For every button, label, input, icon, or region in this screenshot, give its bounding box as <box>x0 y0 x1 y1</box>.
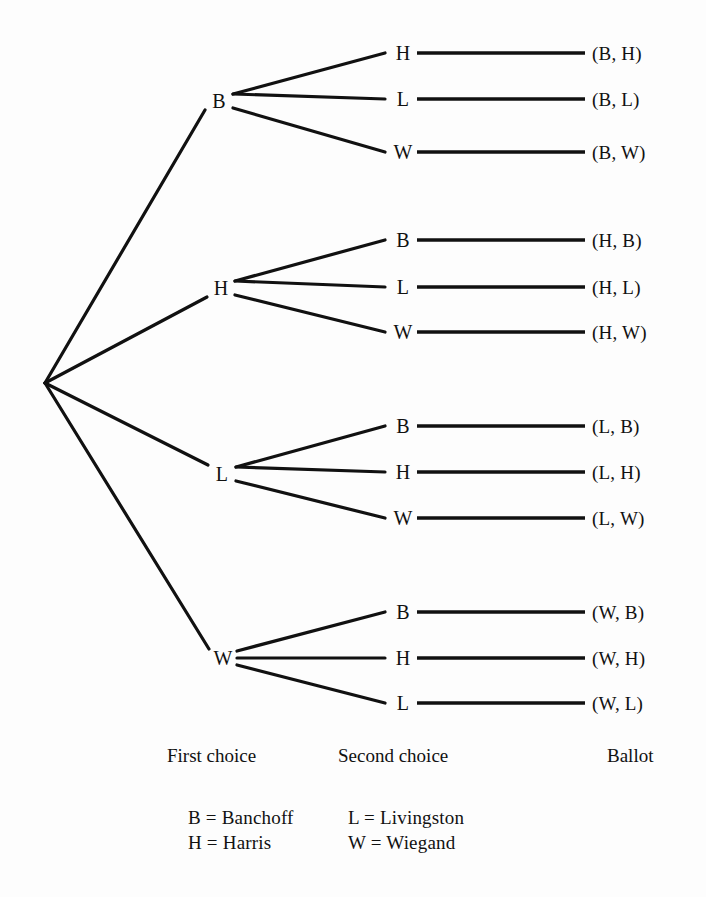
branch-h-w <box>235 295 385 332</box>
branch-l-h <box>236 467 385 472</box>
legend-entry-right: L = Livingston <box>348 805 518 830</box>
first-choice-node-w: W <box>213 648 232 668</box>
ballot-outcome-b-l: (B, L) <box>592 90 640 109</box>
column-caption-ballot: Ballot <box>607 746 653 765</box>
legend-entry-left: B = Banchoff <box>188 805 348 830</box>
ballot-outcome-w-l: (W, L) <box>592 694 643 713</box>
second-choice-node-b-l: L <box>397 89 409 109</box>
ballot-outcome-b-h: (B, H) <box>592 44 642 63</box>
branch-w-b <box>237 612 385 651</box>
column-caption-second-choice: Second choice <box>338 746 448 765</box>
second-choice-node-l-b: B <box>396 416 410 436</box>
ballot-outcome-b-w: (B, W) <box>592 143 646 162</box>
second-choice-node-w-b: B <box>396 602 410 622</box>
second-choice-node-l-w: W <box>393 508 412 528</box>
second-choice-node-h-l: L <box>397 277 409 297</box>
second-choice-node-b-w: W <box>393 142 412 162</box>
legend-row: B = BanchoffL = Livingston <box>188 805 518 830</box>
ballot-outcome-w-h: (W, H) <box>592 649 645 668</box>
first-choice-node-b: B <box>212 91 226 111</box>
second-choice-node-l-h: H <box>396 462 411 482</box>
branch-h-l <box>235 281 385 287</box>
branch-b-l <box>233 94 385 99</box>
second-choice-node-w-l: L <box>397 693 409 713</box>
branch-l-b <box>236 426 385 467</box>
branch-b-w <box>233 108 385 152</box>
second-choice-node-b-h: H <box>396 43 411 63</box>
first-choice-node-l: L <box>216 464 228 484</box>
ballot-outcome-h-b: (H, B) <box>592 231 642 250</box>
second-choice-node-w-h: H <box>396 648 411 668</box>
legend-entry-left: H = Harris <box>188 830 348 855</box>
second-choice-node-h-w: W <box>393 322 412 342</box>
ballot-outcome-h-w: (H, W) <box>592 323 647 342</box>
column-caption-first-choice: First choice <box>167 746 256 765</box>
first-choice-node-h: H <box>214 278 229 298</box>
ballot-outcome-w-b: (W, B) <box>592 603 644 622</box>
branch-h-b <box>235 240 385 281</box>
ballot-outcome-l-w: (L, W) <box>592 509 645 528</box>
branch-l-w <box>236 481 385 518</box>
ballot-outcome-l-h: (L, H) <box>592 463 641 482</box>
branch-w-l <box>237 665 385 703</box>
branch-b-h <box>233 53 385 94</box>
ballot-outcome-h-l: (H, L) <box>592 278 641 297</box>
ballot-outcome-l-b: (L, B) <box>592 417 640 436</box>
second-choice-node-h-b: B <box>396 230 410 250</box>
legend-row: H = HarrisW = Wiegand <box>188 830 518 855</box>
tree-diagram-page: BHLWHLWBLWBHWBHL (B, H)(B, L)(B, W)(H, B… <box>0 0 706 897</box>
legend-entry-right: W = Wiegand <box>348 830 518 855</box>
